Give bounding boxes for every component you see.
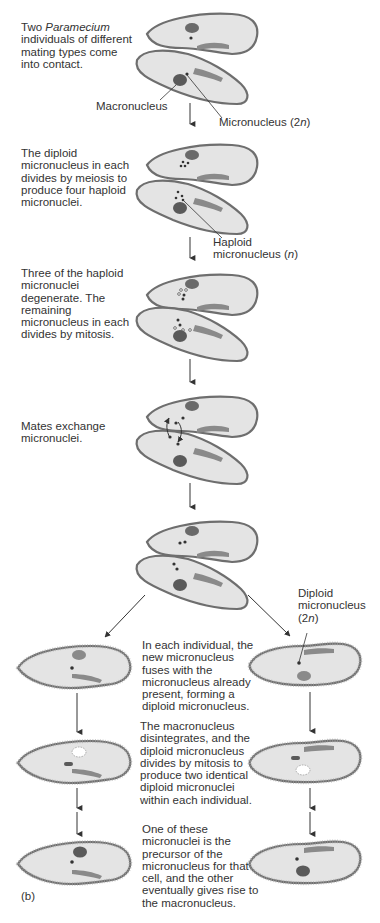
stage-5-pair: [137, 522, 258, 609]
step-2-description: The diploid micronucleus in each divides…: [21, 147, 129, 208]
stage-3-pair: [137, 275, 258, 361]
step-6-description: The macronucleus disintegrates, and the …: [140, 720, 252, 806]
right-cell-final: [250, 841, 361, 883]
step-3-description: Three of the haploid micronuclei degener…: [21, 267, 129, 341]
step-1-description: Two Paramecium individuals of different …: [21, 21, 132, 70]
step-7-description: One of these micronuclei is the precurso…: [142, 823, 258, 909]
step-5-description: In each individual, the new micronucleus…: [142, 639, 253, 713]
stage-2-pair: [137, 145, 258, 238]
label-macronucleus: Macronucleus: [96, 100, 168, 112]
label-micronucleus-2n: Micronucleus (2n): [219, 116, 310, 128]
left-cell-final: [18, 842, 130, 884]
panel-label: (b): [21, 890, 35, 902]
label-haploid-micronucleus: Haploid micronucleus (n): [213, 236, 298, 261]
left-cell-macro-disintegrating: [18, 741, 130, 783]
label-diploid-micronucleus: Diploid micronucleus (2n): [298, 587, 366, 624]
left-cell-fusion: [18, 646, 130, 688]
right-cell-fusion: [250, 633, 361, 685]
right-cell-macro-disintegrating: [250, 740, 361, 782]
step-4-description: Mates exchange micronuclei.: [21, 420, 105, 445]
stage-4-pair: [137, 397, 258, 484]
